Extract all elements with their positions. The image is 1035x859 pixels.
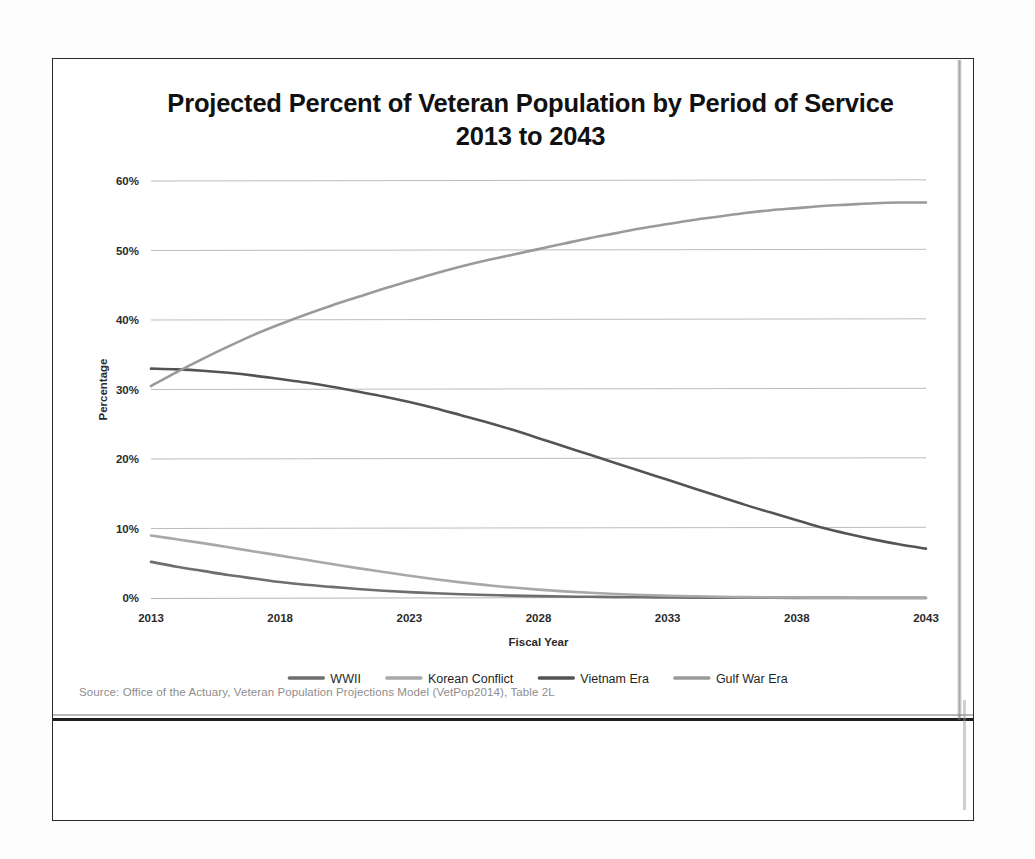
slide-frame: Projected Percent of Veteran Population … <box>52 58 974 821</box>
x-tick-2038: 2038 <box>784 612 810 624</box>
x-tick-2018: 2018 <box>267 612 293 624</box>
y-tick-0%: 0% <box>122 592 139 604</box>
x-axis-tick-labels: 2013201820232028203320382043 <box>138 612 939 624</box>
legend-label-vietnam-era: Vietnam Era <box>580 672 649 686</box>
series-line-wwii <box>151 562 926 598</box>
y-tick-10%: 10% <box>116 523 139 535</box>
x-tick-2013: 2013 <box>138 612 164 624</box>
x-axis-title: Fiscal Year <box>509 636 569 648</box>
series-line-korean-conflict <box>151 535 926 597</box>
y-tick-20%: 20% <box>116 453 139 465</box>
x-tick-2023: 2023 <box>397 612 423 624</box>
y-axis-tick-labels: 0%10%20%30%40%50%60% <box>116 175 139 604</box>
y-axis-title: Percentage <box>97 358 109 420</box>
scan-streak-artifact-lower <box>963 700 966 810</box>
line-chart: 0%10%20%30%40%50%60% 2013201820232028203… <box>53 59 975 739</box>
legend-label-korean-conflict: Korean Conflict <box>428 672 514 686</box>
chart-legend: WWIIKorean ConflictVietnam EraGulf War E… <box>289 672 787 686</box>
chart-plot-area: 0%10%20%30%40%50%60% 2013201820232028203… <box>53 59 975 822</box>
x-tick-2043: 2043 <box>913 612 939 624</box>
legend-label-wwii: WWII <box>330 672 361 686</box>
y-tick-50%: 50% <box>116 245 139 257</box>
y-tick-40%: 40% <box>116 314 139 326</box>
y-tick-60%: 60% <box>116 175 139 187</box>
x-tick-2028: 2028 <box>526 612 552 624</box>
footer-divider-soft <box>53 714 973 716</box>
source-note: Source: Office of the Actuary, Veteran P… <box>79 686 555 698</box>
gridlines <box>151 180 926 599</box>
legend-label-gulf-war-era: Gulf War Era <box>716 672 788 686</box>
x-tick-2033: 2033 <box>655 612 681 624</box>
y-tick-30%: 30% <box>116 384 139 396</box>
footer-band: NCVAS National Center for Veterans Analy… <box>53 721 973 820</box>
series-line-gulf-war-era <box>151 202 926 386</box>
series-layer <box>151 202 926 598</box>
